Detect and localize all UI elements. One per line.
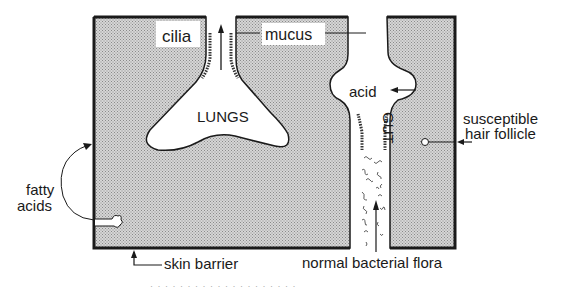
lung-cilia-lining (202, 33, 238, 78)
bacterial-flora-squiggles (362, 157, 385, 247)
fatty-acids-curved-arrow (61, 143, 94, 220)
skin-barrier-label: skin barrier (164, 255, 238, 272)
mucus-flow-arrow (218, 24, 224, 70)
hair-follicle-label: hair follicle (465, 125, 536, 142)
lungs-label: LUNGS (197, 108, 249, 125)
cropped-caption: · · · · · · · · · · · · · · · · · · · · (150, 281, 565, 289)
fatty-label: fatty (26, 181, 55, 198)
left-tissue-block (94, 17, 350, 248)
acid-label: acid (349, 83, 377, 100)
cilia-label: cilia (162, 27, 192, 46)
gut-label: GUT (380, 112, 397, 144)
bacterial-flora-label: normal bacterial flora (302, 254, 443, 271)
acids-label: acids (17, 197, 52, 214)
mucus-label: mucus (265, 26, 312, 43)
skin-barrier-arrow (131, 250, 162, 265)
acid-arrow (390, 87, 416, 93)
body-defences-diagram: cilia mucus LUNGS acid GUT susceptible h… (0, 0, 565, 289)
